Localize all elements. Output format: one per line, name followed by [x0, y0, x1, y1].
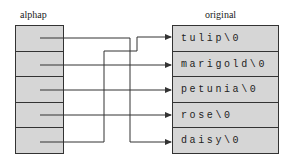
pointer-arrows: [0, 0, 293, 165]
